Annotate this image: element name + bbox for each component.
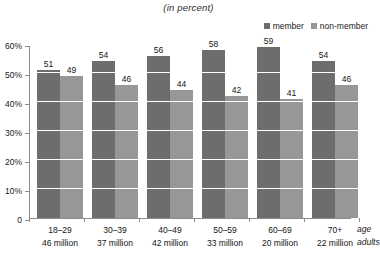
category-name: 30–39 [103, 225, 127, 235]
x-axis-tick [84, 218, 85, 222]
bar-value-label: 42 [225, 85, 248, 95]
category-name: 40–49 [158, 225, 182, 235]
y-axis-tick-label: 20% [5, 157, 22, 167]
legend-label-member: member [273, 21, 304, 31]
bar-non-member[interactable] [225, 96, 248, 218]
bar-value-label: 59 [257, 36, 280, 46]
gridlines [335, 85, 358, 218]
gridlines [147, 56, 170, 218]
legend-swatch-non-member [311, 23, 317, 29]
gridlines [257, 47, 280, 218]
y-axis-tick [25, 75, 30, 76]
y-axis-tick-label: 60% [5, 41, 22, 51]
x-axis-tick [304, 218, 305, 222]
legend-item-member: member [264, 21, 304, 31]
bar-member[interactable] [257, 47, 280, 218]
gridlines [225, 96, 248, 218]
chart-title: (in percent) [0, 2, 377, 13]
bar-value-label: 54 [312, 50, 335, 60]
legend-item-non-member: non-member [311, 21, 368, 31]
bar-value-label: 58 [202, 39, 225, 49]
y-axis-tick-label: 40% [5, 99, 22, 109]
y-axis-tick [25, 133, 30, 134]
gridlines [170, 90, 193, 218]
y-axis-tick-label: 0 [17, 215, 22, 225]
gridlines [202, 50, 225, 218]
bar-member[interactable] [312, 61, 335, 218]
bar-non-member[interactable] [60, 76, 83, 218]
y-axis-tick [25, 162, 30, 163]
bar-non-member[interactable] [335, 85, 358, 218]
plot-area: 010%20%30%40%50%60% 514918–2946 million5… [33, 44, 355, 220]
gridlines [115, 85, 138, 218]
x-axis-tick-origin [29, 218, 30, 222]
bar-non-member[interactable] [170, 90, 193, 218]
gridlines [37, 70, 60, 218]
x-axis-label-age: age [357, 224, 371, 234]
bar-member[interactable] [147, 56, 170, 218]
y-axis-tick [25, 46, 30, 47]
x-axis-tick [249, 218, 250, 222]
bar-value-label: 51 [37, 59, 60, 69]
category-name: 60–69 [268, 225, 292, 235]
bar-non-member[interactable] [280, 99, 303, 218]
bar-group: 5842 [202, 44, 248, 218]
bar-member[interactable] [202, 50, 225, 218]
bar-value-label: 49 [60, 65, 83, 75]
y-axis-tick-label: 10% [5, 186, 22, 196]
bar-group: 5446 [92, 44, 138, 218]
chart-legend: member non-member [264, 21, 368, 31]
bar-value-label: 54 [92, 50, 115, 60]
legend-label-non-member: non-member [320, 21, 368, 31]
legend-swatch-member [264, 23, 270, 29]
bar-group: 5446 [312, 44, 358, 218]
bar-value-label: 56 [147, 45, 170, 55]
bar-group: 5149 [37, 44, 83, 218]
bar-value-label: 44 [170, 79, 193, 89]
bar-non-member[interactable] [115, 85, 138, 218]
x-axis-tick [359, 218, 360, 222]
gridlines [312, 61, 335, 218]
bar-group: 5644 [147, 44, 193, 218]
gridlines [60, 76, 83, 218]
bar-group: 5941 [257, 44, 303, 218]
bar-value-label: 41 [280, 88, 303, 98]
gridlines [92, 61, 115, 218]
category-name: 70+ [328, 225, 342, 235]
y-axis-tick [25, 104, 30, 105]
bar-member[interactable] [37, 70, 60, 218]
bar-value-label: 46 [115, 74, 138, 84]
x-axis-tick [139, 218, 140, 222]
y-axis-tick [25, 191, 30, 192]
x-axis-tick [194, 218, 195, 222]
y-axis-tick-label: 50% [5, 70, 22, 80]
category-name: 18–29 [48, 225, 72, 235]
gridlines [280, 99, 303, 218]
y-axis-tick-label: 30% [5, 128, 22, 138]
x-axis-label-adults: adults [357, 237, 380, 247]
bar-member[interactable] [92, 61, 115, 218]
bar-value-label: 46 [335, 74, 358, 84]
category-name: 50–59 [213, 225, 237, 235]
